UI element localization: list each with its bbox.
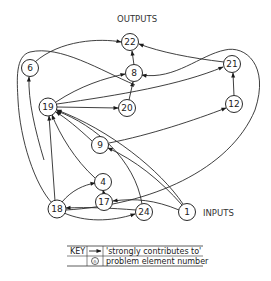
svg-text:1: 1 — [184, 207, 190, 217]
svg-text:8: 8 — [131, 68, 137, 78]
edge-18-4 — [62, 183, 95, 202]
edge-19-6 — [29, 77, 44, 160]
edge-19-20 — [57, 107, 118, 108]
node-17: 17 — [96, 194, 113, 211]
influence-diagram: OUTPUTS INPUTS — [0, 0, 271, 281]
node-12: 12 — [226, 96, 243, 113]
node-8: 8 — [126, 65, 143, 82]
svg-text:24: 24 — [138, 207, 150, 217]
edge-1-9 — [108, 148, 182, 205]
edge-12-21 — [233, 73, 234, 96]
node-6: 6 — [22, 60, 39, 77]
svg-text:12: 12 — [228, 99, 239, 109]
node-18: 18 — [48, 200, 66, 218]
svg-text:22: 22 — [124, 37, 135, 47]
key-row-element: problem element number — [106, 257, 209, 266]
svg-text:21: 21 — [226, 59, 237, 69]
node-21: 21 — [224, 56, 241, 73]
edge-21-22 — [139, 44, 224, 62]
node-19: 19 — [39, 98, 57, 116]
edge-18-24 — [64, 213, 135, 220]
edge-8-22 — [132, 51, 134, 65]
svg-text:20: 20 — [121, 103, 133, 113]
node-1: 1 — [179, 204, 196, 221]
edge-9-19 — [56, 112, 92, 141]
node-9: 9 — [92, 137, 109, 154]
edge-18-19 — [49, 116, 55, 201]
node-20: 20 — [119, 100, 136, 117]
svg-text:17: 17 — [98, 197, 109, 207]
node-4: 4 — [95, 174, 112, 191]
svg-text:9: 9 — [97, 140, 103, 150]
node-24: 24 — [136, 204, 153, 221]
edge-20-8 — [129, 82, 133, 100]
key-legend: KEY n 'strongly contributes to' problem … — [67, 246, 209, 266]
key-row-contributes: 'strongly contributes to' — [106, 247, 201, 256]
key-title: KEY — [70, 247, 85, 256]
outputs-label: OUTPUTS — [117, 14, 157, 24]
svg-text:4: 4 — [100, 177, 106, 187]
svg-text:6: 6 — [27, 63, 33, 73]
node-22: 22 — [122, 34, 139, 51]
svg-text:18: 18 — [51, 204, 63, 214]
inputs-label: INPUTS — [203, 208, 234, 218]
svg-text:n: n — [94, 259, 97, 264]
svg-text:19: 19 — [42, 102, 54, 112]
edge-19-8 — [56, 74, 125, 102]
